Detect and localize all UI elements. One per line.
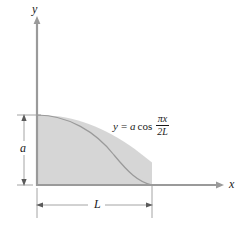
x-axis-arrowhead [216,182,224,189]
equation-function: cos [138,120,153,132]
figure-container: y x a L y = a cos πx 2L [0,0,251,236]
equation-amplitude: a [130,120,136,132]
fraction-denominator: 2L [156,126,169,138]
y-axis-label: y [32,3,37,15]
curve-equation: y = a cos πx 2L [113,114,169,138]
equation-fraction: πx 2L [156,113,169,137]
equation-equals: = [121,120,127,132]
fraction-numerator: πx [157,113,168,125]
y-axis-arrowhead [34,16,41,24]
dimension-label-L: L [90,198,105,210]
dimension-label-a: a [20,142,26,154]
x-axis-label: x [229,178,234,190]
equation-lhs: y [113,120,118,132]
